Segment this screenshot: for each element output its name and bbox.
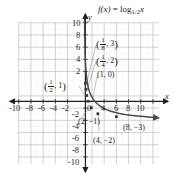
equals-sign: = (113, 4, 118, 14)
y-tick-label-8: 8 (76, 31, 80, 40)
x-tick-label-neg2: -2 (62, 104, 69, 113)
point-label-two-negone: (2, −1) (78, 118, 100, 126)
logarithm-graph-figure: f(x) = log1/2x y x -10 -8 -6 -4 -2 0 6 8… (0, 0, 177, 178)
point-label-one-zero: (1, 0) (97, 71, 114, 79)
grid-minor (18, 23, 159, 164)
x-tick-label-neg4: -4 (50, 104, 57, 113)
x-tick-label-4: 4 (101, 104, 105, 113)
y-tick-label-neg8: -8 (72, 146, 79, 155)
y-tick-label-2: 2 (76, 67, 80, 76)
log-variable: x (140, 4, 144, 14)
grid-major (18, 23, 159, 164)
point-label-four-negtwo: (4, −2) (93, 137, 115, 145)
x-tick-label-neg8: -8 (26, 104, 33, 113)
point-marker-4-neg2 (97, 112, 100, 115)
coordinate-plane (0, 0, 177, 178)
point-label-one-quarter-two: (14, 2) (96, 54, 118, 69)
log-base: 1/2 (132, 8, 140, 15)
function-argument: (x) (101, 4, 111, 14)
x-tick-label-8: 8 (126, 104, 130, 113)
x-tick-label-10: 10 (136, 104, 145, 113)
y-tick-label-neg6: -6 (72, 134, 79, 143)
y-axis-label: y (88, 13, 92, 22)
y-tick-label-neg10: -10 (68, 158, 79, 167)
log-operator: log (120, 4, 132, 14)
x-axis-label: x (165, 92, 169, 101)
function-title: f(x) = log1/2x (98, 5, 144, 14)
point-label-one-eighth-three: (18, 3) (96, 37, 118, 52)
y-tick-label-4: 4 (76, 55, 80, 64)
point-label-one-half-one: (12, 1) (44, 79, 66, 94)
point-marker-1-4-2 (85, 88, 88, 91)
x-tick-label-6: 6 (114, 104, 118, 113)
point-label-eight-negthree: (8, −3) (123, 124, 145, 132)
point-marker-8-neg3 (115, 115, 118, 118)
x-tick-label-neg6: -6 (38, 104, 45, 113)
y-tick-label-6: 6 (76, 43, 80, 52)
point-marker-1-8-3 (84, 82, 87, 85)
point-marker-1-2-1 (85, 94, 88, 97)
y-tick-label-10: 10 (72, 19, 81, 28)
x-tick-label-0: 0 (87, 104, 91, 113)
x-tick-label-neg10: -10 (9, 104, 20, 113)
